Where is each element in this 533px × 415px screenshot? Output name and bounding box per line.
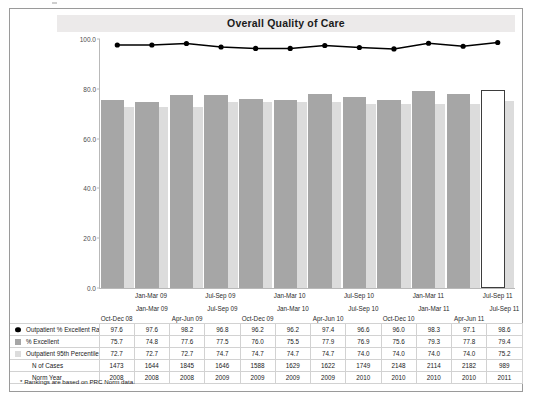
table-cell: 1845 [170,360,205,372]
table-cell: 98.2 [170,324,205,336]
y-tick-label: 100.0 [80,36,96,43]
table-cell: 97.4 [311,324,346,336]
table-cell: 77.5 [205,336,240,348]
table-cell: 2182 [452,360,487,372]
table-cell: 75.7 [99,336,134,348]
report-card: Overall Quality of Care 100.0 80.0 60.0 … [9,8,523,392]
table-column-header [240,303,275,313]
table-column-header [275,313,310,324]
table-header-spacer [10,303,99,313]
table-cell: 74.7 [311,348,346,360]
scan-speck [52,2,57,4]
y-tick-label: 80.0 [83,85,96,92]
table-row: Outpatient % Excellent Rank *97.697.698.… [10,324,522,336]
table-cell: 74.7 [275,348,310,360]
table-cell: 1473 [99,360,134,372]
table-cell: 77.9 [311,336,346,348]
table-cell: 1646 [205,360,240,372]
table-header-row-upper: Jan-Mar 09Jul-Sep 09Jan-Mar 10Jul-Sep 10… [10,303,522,313]
table-cell: 74.0 [381,348,416,360]
plot-area: 100.0 80.0 60.0 40.0 20.0 0.0 [99,39,515,289]
x-axis-label: Jan-Mar 10 [274,292,306,299]
table-column-header [170,303,205,313]
table-column-header: Oct-Dec 09 [240,313,275,324]
table-column-header [487,313,522,324]
rank-marker [115,42,120,47]
table-column-header: Oct-Dec 08 [99,313,134,324]
table-cell: 72.7 [99,348,134,360]
table-cell: 77.6 [170,336,205,348]
data-table-wrap: Jan-Mar 09Jul-Sep 09Jan-Mar 10Jul-Sep 10… [10,303,522,384]
table-column-header: Jan-Mar 10 [275,303,310,313]
rank-marker [495,40,500,45]
x-axis-label: Jul-Sep 10 [344,292,374,299]
rank-marker [322,43,327,48]
line-series-layer [100,39,515,288]
table-cell: 1622 [311,360,346,372]
rank-marker [253,46,258,51]
table-row: Outpatient 95th Percentile72.772.772.774… [10,348,522,360]
table-cell: 2010 [381,372,416,384]
table-cell: 77.8 [452,336,487,348]
table-header-spacer [10,313,99,324]
x-axis-label: Jan-Mar 11 [413,292,444,299]
table-cell: 74.0 [346,348,381,360]
rank-marker [461,44,466,49]
table-row-label: N of Cases [10,360,99,372]
table-cell: 2008 [170,372,205,384]
table-row: N of Cases147316441845164615881629162217… [10,360,522,372]
table-cell: 2009 [240,372,275,384]
table-cell: 1588 [240,360,275,372]
table-column-header: Apr-Jun 11 [452,313,487,324]
x-axis-label: Jul-Sep 09 [205,292,235,299]
table-cell: 75.5 [275,336,310,348]
table-cell: 74.7 [240,348,275,360]
legend-label: N of Cases [32,362,63,369]
y-tick-label: 0.0 [87,285,96,292]
legend-dot-icon [15,327,21,333]
table-cell: 1749 [346,360,381,372]
table-column-header [205,313,240,324]
table-cell: 76.9 [346,336,381,348]
table-cell: 97.1 [452,324,487,336]
table-column-header [311,303,346,313]
table-cell: 97.6 [99,324,134,336]
chart-panel: Overall Quality of Care 100.0 80.0 60.0 … [10,9,522,303]
table-cell: 2009 [311,372,346,384]
x-axis-label: Jan-Mar 09 [135,292,167,299]
table-column-header [346,313,381,324]
table-cell: 2009 [275,372,310,384]
table-column-header: Jul-Sep 10 [346,303,381,313]
table-column-header: Apr-Jun 09 [170,313,205,324]
rank-marker [218,44,223,49]
legend-label: % Excellent [26,338,59,345]
table-cell: 96.6 [346,324,381,336]
legend-square-icon [15,339,21,345]
table-cell: 74.0 [452,348,487,360]
y-tick-label: 40.0 [83,185,96,192]
table-cell: 1644 [134,360,169,372]
rank-marker [288,46,293,51]
table-cell: 98.3 [416,324,451,336]
table-cell: 2114 [416,360,451,372]
table-column-header [416,313,451,324]
table-column-header [452,303,487,313]
table-column-header [99,303,134,313]
table-cell: 2010 [452,372,487,384]
data-table: Jan-Mar 09Jul-Sep 09Jan-Mar 10Jul-Sep 10… [10,303,523,384]
rank-marker [149,42,154,47]
table-row: % Excellent75.774.877.677.576.075.577.97… [10,336,522,348]
table-row-label: Outpatient 95th Percentile [10,348,99,360]
table-column-header: Oct-Dec 10 [381,313,416,324]
table-cell: 79.3 [416,336,451,348]
table-column-header: Apr-Jun 10 [311,313,346,324]
rank-marker [184,41,189,46]
table-cell: 2011 [487,372,522,384]
table-column-header [134,313,169,324]
screenshot-root: Overall Quality of Care 100.0 80.0 60.0 … [0,0,533,415]
table-cell: 74.7 [205,348,240,360]
y-tick-label: 20.0 [83,235,96,242]
table-cell: 74.8 [134,336,169,348]
table-cell: 96.2 [240,324,275,336]
rank-marker [391,46,396,51]
